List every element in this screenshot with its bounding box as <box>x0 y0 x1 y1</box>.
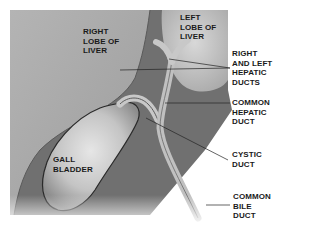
label-left-lobe-of-liver: LEFT LOBE OF LIVER <box>180 13 216 42</box>
label-cystic-duct: CYSTIC DUCT <box>232 150 262 169</box>
label-common-hepatic-duct: COMMON HEPATIC DUCT <box>232 98 270 127</box>
label-gall-bladder: GALL BLADDER <box>53 155 93 174</box>
label-right-lobe-of-liver: RIGHT LOBE OF LIVER <box>83 27 119 56</box>
label-common-bile-duct: COMMON BILE DUCT <box>233 192 271 221</box>
label-hepatic-ducts: RIGHT AND LEFT HEPATIC DUCTS <box>232 49 272 87</box>
